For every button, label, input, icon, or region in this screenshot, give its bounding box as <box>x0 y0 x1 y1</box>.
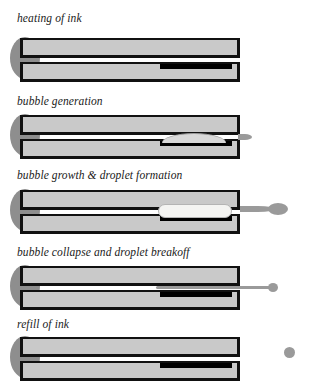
printhead-assembly-3 <box>0 161 310 240</box>
chamber-ceiling-1 <box>20 38 240 58</box>
heater-element-4 <box>160 292 232 297</box>
vapor-bubble-3 <box>158 204 232 218</box>
stage-panel-1: heating of ink <box>0 0 310 85</box>
printhead-assembly-2 <box>0 85 310 161</box>
ink-meniscus-2 <box>238 134 252 140</box>
chamber-ceiling-4 <box>20 266 240 286</box>
stage-panel-3: bubble growth & droplet formation <box>0 161 310 240</box>
droplet-tail-4 <box>156 286 276 289</box>
chamber-ceiling-5 <box>20 337 240 357</box>
heater-element-5 <box>160 363 232 368</box>
breaking-droplet-4 <box>268 283 278 292</box>
heater-element-1 <box>160 64 232 69</box>
forming-droplet-3 <box>268 203 288 215</box>
chamber-ceiling-2 <box>20 115 240 135</box>
printhead-assembly-4 <box>0 240 310 314</box>
stage-panel-5: refill of ink <box>0 314 310 379</box>
ejected-droplet-5 <box>284 347 295 358</box>
stage-panel-2: bubble generation <box>0 85 310 161</box>
stage-panel-4: bubble collapse and droplet breakoff <box>0 240 310 314</box>
printhead-assembly-1 <box>0 0 310 85</box>
printhead-assembly-5 <box>0 314 310 379</box>
